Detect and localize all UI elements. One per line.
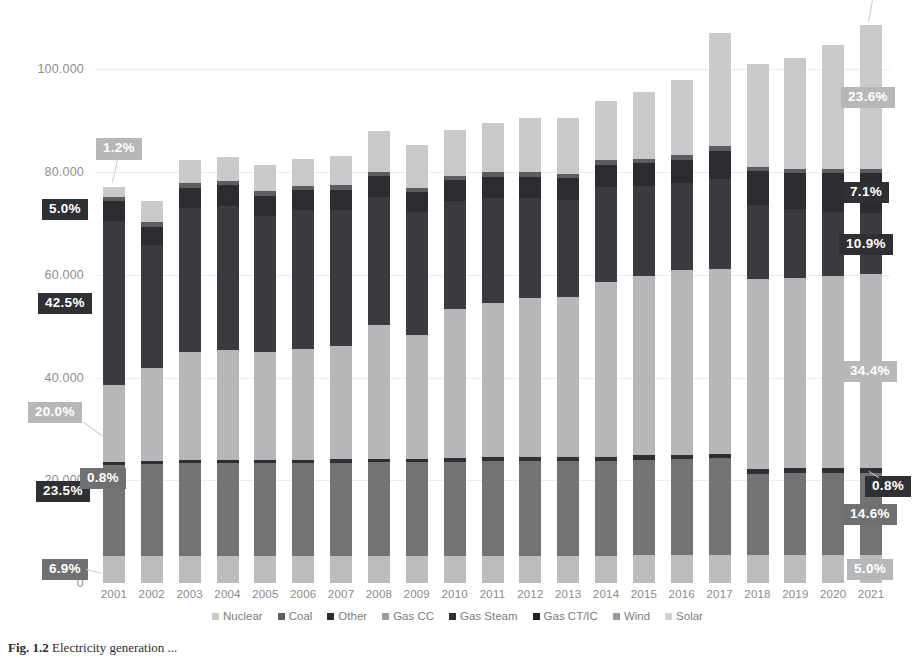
bar-column[interactable] bbox=[482, 123, 504, 583]
bar-segment-gas-cc[interactable] bbox=[406, 212, 428, 335]
bar-segment-other[interactable] bbox=[292, 190, 314, 210]
legend-item-gas-cc[interactable]: Gas CC bbox=[382, 610, 434, 622]
bar-segment-solar[interactable] bbox=[179, 556, 201, 583]
bar-segment-gas-cc[interactable] bbox=[595, 187, 617, 282]
bar-segment-nuclear[interactable] bbox=[103, 187, 125, 197]
bar-segment-gas-steam[interactable] bbox=[292, 349, 314, 459]
bar-segment-other[interactable] bbox=[368, 176, 390, 197]
legend-item-gas-steam[interactable]: Gas Steam bbox=[449, 610, 518, 622]
bar-column[interactable] bbox=[822, 45, 844, 583]
bar-segment-gas-steam[interactable] bbox=[709, 269, 731, 454]
bar-segment-gas-steam[interactable] bbox=[671, 270, 693, 455]
bar-segment-wind[interactable] bbox=[784, 473, 806, 555]
bar-segment-gas-steam[interactable] bbox=[519, 298, 541, 457]
bar-segment-wind[interactable] bbox=[254, 463, 276, 556]
bar-segment-gas-steam[interactable] bbox=[595, 282, 617, 457]
bar-segment-solar[interactable] bbox=[822, 555, 844, 583]
bar-segment-other[interactable] bbox=[406, 192, 428, 212]
bar-segment-nuclear[interactable] bbox=[595, 101, 617, 160]
bar-segment-gas-steam[interactable] bbox=[822, 276, 844, 469]
bar-segment-wind[interactable] bbox=[822, 473, 844, 555]
bar-segment-wind[interactable] bbox=[747, 474, 769, 555]
bar-segment-gas-steam[interactable] bbox=[482, 303, 504, 457]
bar-segment-solar[interactable] bbox=[368, 556, 390, 583]
bar-segment-nuclear[interactable] bbox=[671, 80, 693, 154]
bar-segment-gas-cc[interactable] bbox=[103, 221, 125, 385]
bar-segment-gas-steam[interactable] bbox=[444, 309, 466, 458]
bar-column[interactable] bbox=[292, 158, 314, 583]
bar-segment-nuclear[interactable] bbox=[482, 123, 504, 172]
bar-column[interactable] bbox=[671, 80, 693, 583]
bar-segment-gas-steam[interactable] bbox=[406, 335, 428, 458]
bar-segment-solar[interactable] bbox=[330, 556, 352, 583]
legend-item-gas-ct-ic[interactable]: Gas CT/IC bbox=[533, 610, 598, 622]
bar-segment-gas-cc[interactable] bbox=[179, 208, 201, 352]
bar-segment-other[interactable] bbox=[141, 227, 163, 245]
bar-segment-solar[interactable] bbox=[292, 556, 314, 583]
bar-segment-gas-steam[interactable] bbox=[747, 279, 769, 469]
bar-column[interactable] bbox=[103, 186, 125, 583]
bar-segment-wind[interactable] bbox=[557, 461, 579, 556]
bar-column[interactable] bbox=[747, 64, 769, 583]
bar-segment-wind[interactable] bbox=[406, 462, 428, 555]
bar-segment-gas-steam[interactable] bbox=[217, 350, 239, 460]
bar-segment-nuclear[interactable] bbox=[444, 130, 466, 176]
bar-segment-wind[interactable] bbox=[633, 460, 655, 556]
bar-segment-wind[interactable] bbox=[595, 461, 617, 556]
bar-segment-other[interactable] bbox=[519, 177, 541, 199]
bar-segment-nuclear[interactable] bbox=[519, 118, 541, 172]
bar-segment-solar[interactable] bbox=[254, 556, 276, 583]
bar-column[interactable] bbox=[444, 129, 466, 583]
bar-segment-gas-steam[interactable] bbox=[557, 297, 579, 456]
bar-segment-wind[interactable] bbox=[482, 461, 504, 556]
bar-segment-other[interactable] bbox=[330, 190, 352, 210]
legend-item-wind[interactable]: Wind bbox=[613, 610, 650, 622]
bar-segment-solar[interactable] bbox=[217, 556, 239, 583]
bar-segment-other[interactable] bbox=[557, 178, 579, 200]
bar-segment-solar[interactable] bbox=[784, 555, 806, 583]
legend-item-coal[interactable]: Coal bbox=[278, 610, 313, 622]
bar-column[interactable] bbox=[709, 33, 731, 583]
bar-segment-nuclear[interactable] bbox=[292, 159, 314, 186]
bar-segment-solar[interactable] bbox=[519, 556, 541, 583]
bar-segment-solar[interactable] bbox=[671, 555, 693, 583]
bar-segment-nuclear[interactable] bbox=[368, 131, 390, 172]
bar-segment-nuclear[interactable] bbox=[557, 118, 579, 173]
bar-segment-nuclear[interactable] bbox=[784, 58, 806, 168]
bar-segment-nuclear[interactable] bbox=[709, 33, 731, 146]
bar-segment-other[interactable] bbox=[747, 171, 769, 204]
bar-segment-gas-steam[interactable] bbox=[784, 278, 806, 468]
bar-segment-gas-cc[interactable] bbox=[217, 206, 239, 350]
bar-segment-gas-cc[interactable] bbox=[368, 197, 390, 325]
bar-segment-gas-cc[interactable] bbox=[330, 210, 352, 346]
legend-item-other[interactable]: Other bbox=[327, 610, 367, 622]
bar-segment-other[interactable] bbox=[709, 151, 731, 179]
bar-segment-gas-steam[interactable] bbox=[179, 352, 201, 460]
bar-segment-solar[interactable] bbox=[482, 556, 504, 583]
bar-segment-gas-cc[interactable] bbox=[557, 200, 579, 298]
bar-segment-nuclear[interactable] bbox=[179, 160, 201, 183]
bar-column[interactable] bbox=[595, 101, 617, 583]
bar-segment-nuclear[interactable] bbox=[254, 165, 276, 191]
bar-column[interactable] bbox=[141, 201, 163, 583]
bar-segment-nuclear[interactable] bbox=[747, 64, 769, 167]
bar-segment-gas-steam[interactable] bbox=[633, 276, 655, 456]
bar-segment-wind[interactable] bbox=[709, 458, 731, 555]
bar-segment-gas-cc[interactable] bbox=[444, 201, 466, 309]
bar-segment-other[interactable] bbox=[671, 160, 693, 183]
bar-segment-wind[interactable] bbox=[330, 463, 352, 556]
bar-segment-gas-cc[interactable] bbox=[292, 210, 314, 349]
bar-segment-wind[interactable] bbox=[671, 459, 693, 555]
bar-segment-solar[interactable] bbox=[141, 556, 163, 583]
bar-segment-other[interactable] bbox=[217, 185, 239, 206]
bar-segment-other[interactable] bbox=[254, 196, 276, 216]
bar-column[interactable] bbox=[784, 58, 806, 583]
bar-segment-gas-steam[interactable] bbox=[103, 385, 125, 462]
bar-segment-other[interactable] bbox=[595, 165, 617, 187]
bar-segment-gas-cc[interactable] bbox=[141, 245, 163, 368]
bar-column[interactable] bbox=[860, 25, 882, 583]
bar-segment-other[interactable] bbox=[444, 180, 466, 201]
bar-segment-nuclear[interactable] bbox=[633, 92, 655, 159]
bar-segment-wind[interactable] bbox=[444, 462, 466, 556]
bar-segment-gas-cc[interactable] bbox=[254, 216, 276, 352]
